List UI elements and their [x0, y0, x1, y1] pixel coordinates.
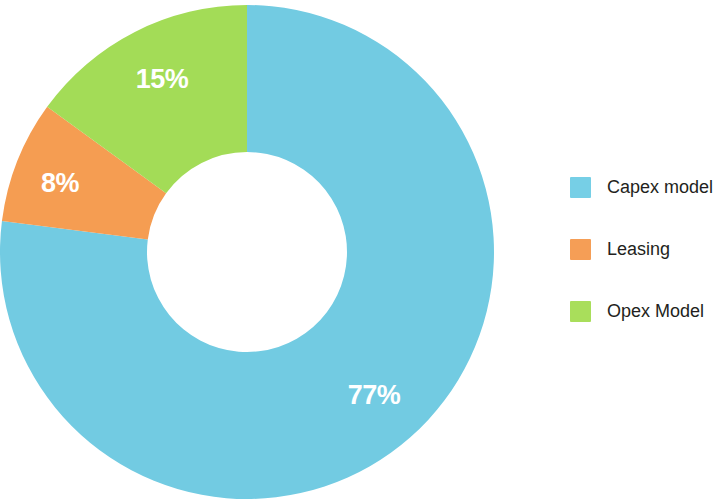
- legend-label-opex-model: Opex Model: [607, 301, 704, 322]
- donut-slice-label: 8%: [41, 168, 80, 198]
- legend-item-opex-model[interactable]: Opex Model: [570, 300, 721, 322]
- legend-swatch-leasing: [570, 239, 591, 260]
- donut-slice-label: 15%: [136, 64, 189, 94]
- legend-swatch-capex-model: [570, 177, 591, 198]
- chart-page: 77%8%15% Capex model Leasing Opex Model: [0, 0, 721, 500]
- legend-swatch-opex-model: [570, 301, 591, 322]
- legend-label-capex-model: Capex model: [607, 177, 713, 198]
- donut-slices: [0, 5, 494, 499]
- legend-item-leasing[interactable]: Leasing: [570, 238, 721, 260]
- legend-label-leasing: Leasing: [607, 239, 670, 260]
- donut-slice-label: 77%: [348, 380, 401, 410]
- donut-chart: 77%8%15%: [0, 0, 510, 500]
- chart-legend: Capex model Leasing Opex Model: [570, 176, 721, 336]
- legend-item-capex-model[interactable]: Capex model: [570, 176, 721, 198]
- donut-chart-svg: 77%8%15%: [0, 0, 510, 500]
